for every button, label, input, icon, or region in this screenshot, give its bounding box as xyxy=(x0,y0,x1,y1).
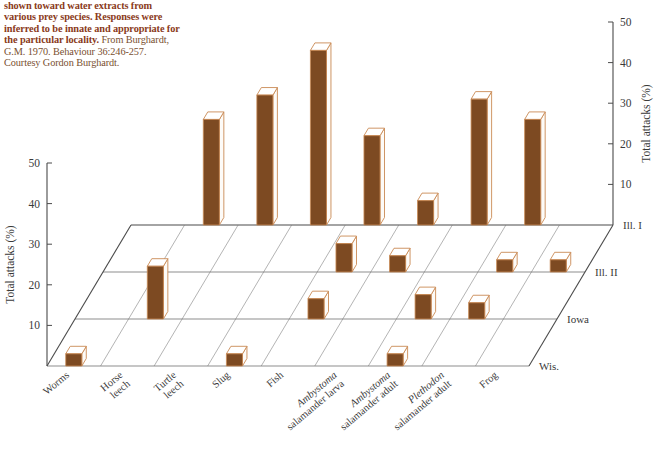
category-axis-label: Turtleleech xyxy=(152,369,186,403)
bar-3d xyxy=(390,248,411,272)
bar-3d xyxy=(310,43,331,225)
category-label-line: Frog xyxy=(477,369,500,391)
category-axis-label: Slug xyxy=(210,369,232,390)
bar-3d xyxy=(203,112,224,225)
bar-3d xyxy=(336,236,357,272)
category-label-line: Worms xyxy=(41,369,71,397)
bar-3d xyxy=(469,295,490,319)
category-axis-label: Frog xyxy=(477,369,500,391)
category-axis-label: Worms xyxy=(41,369,71,397)
left-axis-tick-label: 10 xyxy=(29,319,41,331)
bar-chart-3d: 1020304050Total attacks (%)1020304050Tot… xyxy=(0,0,658,456)
bar-3d xyxy=(471,92,492,225)
left-axis-tick-label: 40 xyxy=(29,198,41,210)
left-axis-tick-label: 50 xyxy=(29,157,41,169)
bar-3d xyxy=(364,128,385,225)
depth-axis-label: Ill. II xyxy=(595,266,618,278)
bar-3d xyxy=(418,193,439,225)
right-axis-tick-label: 50 xyxy=(620,16,632,28)
right-axis-title: Total attacks (%) xyxy=(640,84,653,163)
left-axis-title: Total attacks (%) xyxy=(4,225,17,304)
right-axis-tick-label: 10 xyxy=(620,178,632,190)
bar-3d xyxy=(525,112,546,225)
depth-axis-label: Iowa xyxy=(567,313,589,325)
grid-layer xyxy=(47,225,613,366)
depth-axis-label: Ill. I xyxy=(623,219,642,231)
bar-3d xyxy=(415,287,436,319)
category-axis-label: Plethodonsalamander adult xyxy=(384,369,453,432)
right-axis-tick-label: 20 xyxy=(620,138,632,150)
bar-3d xyxy=(257,88,278,225)
category-label-line: Slug xyxy=(210,369,232,390)
right-axis-tick-label: 30 xyxy=(620,97,632,109)
category-label-line: Fish xyxy=(264,369,286,390)
bar-3d xyxy=(387,346,408,366)
bar-3d xyxy=(308,291,329,319)
depth-axis-label: Wis. xyxy=(539,360,559,372)
bars-layer xyxy=(66,43,571,366)
category-axis-label: Horseleech xyxy=(98,369,132,403)
category-axis-label: Ambystomasalamander larva xyxy=(277,369,346,432)
left-axis-tick-label: 30 xyxy=(29,238,41,250)
category-axis-label: Ambystomasalamander adult xyxy=(331,369,400,432)
bar-3d xyxy=(226,346,247,366)
bar-3d xyxy=(550,252,571,272)
bar-3d xyxy=(66,346,87,366)
category-axis-label: Fish xyxy=(264,369,286,390)
right-axis-tick-label: 40 xyxy=(620,57,632,69)
left-axis-tick-label: 20 xyxy=(29,279,41,291)
bar-3d xyxy=(147,259,168,319)
bar-3d xyxy=(497,252,518,272)
